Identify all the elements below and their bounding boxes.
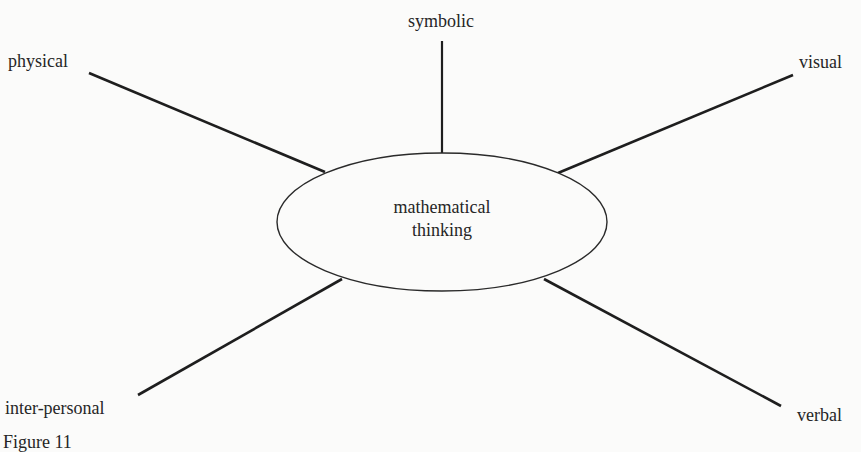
spoke-verbal [544,279,781,406]
spoke-inter-personal [138,279,342,395]
center-label-line2: thinking [342,219,542,242]
center-label-line1: mathematical [342,196,542,219]
spoke-physical [89,73,325,172]
node-label-visual: visual [799,52,842,72]
node-label-symbolic: symbolic [408,11,474,31]
figure-caption: Figure 11 [3,432,72,452]
node-label-verbal: verbal [797,405,842,425]
node-label-physical: physical [8,51,68,71]
node-label-inter-personal: inter-personal [5,398,105,418]
spoke-visual [558,75,793,173]
center-node: mathematical thinking [342,196,542,242]
